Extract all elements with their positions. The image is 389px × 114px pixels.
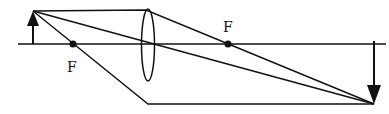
focal-point-left	[70, 41, 77, 48]
focal-point-right	[225, 41, 232, 48]
converging-lens	[142, 9, 155, 81]
focal-label-right: F	[223, 19, 233, 35]
ray-diagram: F F	[0, 0, 389, 114]
focal-label-left: F	[67, 59, 77, 75]
object-arrow	[27, 11, 39, 44]
ray-center	[33, 11, 374, 104]
image-arrow	[367, 41, 381, 104]
